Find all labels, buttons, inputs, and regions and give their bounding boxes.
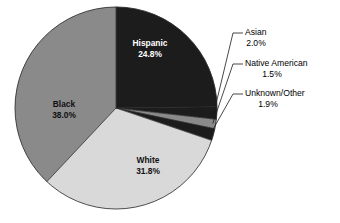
- callout-slice-labels: Asian2.0%Native American1.5%Unknown/Othe…: [245, 27, 308, 109]
- callout-label-percent-native-american: 1.5%: [262, 69, 282, 79]
- slice-label-percent-hispanic: 24.8%: [138, 49, 162, 59]
- pie-chart: Hispanic24.8%Black38.0%White31.8% Asian2…: [0, 0, 340, 223]
- slice-label-name-hispanic: Hispanic: [133, 38, 168, 48]
- slice-label-name-white: White: [137, 155, 160, 165]
- callout-label-name-native-american: Native American: [245, 58, 308, 68]
- callout-label-name-unknown-other: Unknown/Other: [245, 88, 305, 98]
- pie-slice-hispanic[interactable]: [116, 7, 217, 108]
- callout-label-percent-unknown-other: 1.9%: [258, 99, 278, 109]
- callout-label-percent-asian: 2.0%: [246, 38, 266, 48]
- leader-line-asian: [214, 33, 243, 113]
- chart-canvas: Hispanic24.8%Black38.0%White31.8% Asian2…: [0, 0, 340, 223]
- slice-label-name-black: Black: [53, 99, 76, 109]
- slice-label-percent-white: 31.8%: [136, 166, 160, 176]
- slice-label-percent-black: 38.0%: [52, 110, 76, 120]
- callout-label-name-asian: Asian: [245, 27, 267, 37]
